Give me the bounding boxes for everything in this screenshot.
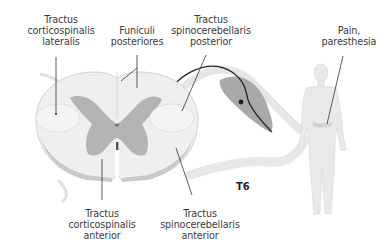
human-figure	[298, 64, 346, 214]
label-funiculi-posteriores: Funiculi posteriores	[106, 25, 168, 47]
diagram-canvas: Tractus corticospinalis lateralis Funicu…	[0, 0, 390, 252]
label-tractus-spinocerebellaris-anterior: Tractus spinocerebellaris anterior	[158, 208, 242, 241]
label-tractus-spinocerebellaris-posterior: Tractus spinocerebellaris posterior	[170, 14, 252, 47]
label-pain-paresthesia: Pain, paresthesia	[318, 25, 380, 47]
label-tractus-corticospinalis-anterior: Tractus corticospinalis anterior	[62, 208, 142, 241]
label-tractus-corticospinalis-lateralis: Tractus corticospinalis lateralis	[16, 14, 106, 47]
segment-label: T6	[236, 181, 250, 192]
